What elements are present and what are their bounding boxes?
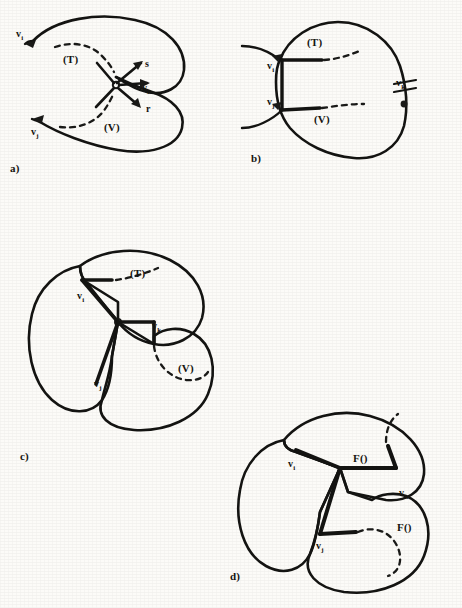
panel-b-vertex-k-label: vk <box>396 77 405 91</box>
panel-c-vertex-k-label: vk <box>152 320 161 334</box>
panel-a-vector-s-label: s <box>145 58 149 69</box>
panel-d-vertex-i-label: vi <box>288 458 295 472</box>
panel-b-region-t-label: (T) <box>307 36 322 48</box>
panel-a-vertex-i-label: vi <box>16 28 23 42</box>
panel-d-func-lower-label: F() <box>397 521 412 533</box>
panel-a-vertex-k-label: vk <box>142 82 151 96</box>
panel-b-region-v-label: (V) <box>314 113 330 125</box>
panel-b-vertex-j-label: vj <box>267 96 275 110</box>
panel-c-region-v-label: (V) <box>178 362 194 374</box>
panel-c-letter: c) <box>20 450 29 462</box>
panel-c-drawing <box>18 244 238 434</box>
panel-a-region-v-label: (V) <box>104 121 120 133</box>
figure-root: vi vj (T) (V) s vk r a) (T) (V) <box>0 0 462 608</box>
panel-c-region-t-label: (T) <box>130 267 145 279</box>
panel-c-vertex-i-label: vi <box>77 290 84 304</box>
panel-a-region-t-label: (T) <box>63 53 78 65</box>
panel-d-drawing <box>228 404 456 600</box>
panel-d-letter: d) <box>230 570 240 582</box>
panel-c-vertex-j-label: vj <box>94 378 102 392</box>
panel-d-vertex-j-label: vj <box>316 540 324 554</box>
panel-a-letter: a) <box>10 162 20 174</box>
panel-a-vector-r-label: r <box>146 103 151 114</box>
panel-d-func-upper-label: F() <box>353 452 368 464</box>
panel-a-vertex-j-label: vj <box>31 126 39 140</box>
panel-b-vertex-i-label: vi <box>267 60 274 74</box>
panel-b-letter: b) <box>251 152 261 164</box>
panel-d-vertex-k-label: vk <box>399 487 408 501</box>
panel-a-drawing <box>0 0 230 190</box>
